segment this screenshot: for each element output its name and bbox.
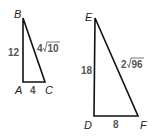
side-bc-radicand: 10 [48, 43, 60, 54]
side-ef-radicand: 96 [132, 59, 144, 70]
vertex-b-label: B [14, 8, 21, 20]
side-ef-coefficient: 2 [121, 59, 127, 70]
side-df-length: 8 [113, 119, 119, 130]
triangle-abc: B A C 12 4 4 10 [8, 8, 60, 96]
side-ab-length: 12 [8, 47, 20, 58]
triangle-def: E D F 18 8 2 96 [81, 11, 148, 131]
side-bc-coefficient: 4 [37, 43, 43, 54]
vertex-a-label: A [14, 84, 22, 96]
side-de-length: 18 [81, 65, 93, 76]
similar-triangles-diagram: B A C 12 4 4 10 E D F 18 8 2 96 [0, 0, 157, 137]
vertex-c-label: C [45, 84, 53, 96]
side-ef-length: 2 96 [121, 58, 144, 70]
vertex-d-label: D [84, 119, 92, 131]
vertex-f-label: F [140, 119, 148, 131]
vertex-e-label: E [85, 11, 93, 23]
side-bc-length: 4 10 [37, 42, 60, 54]
side-ac-length: 4 [30, 85, 36, 96]
